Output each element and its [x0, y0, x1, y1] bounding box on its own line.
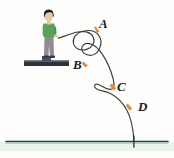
person-shoe-right [50, 56, 56, 58]
physics-trajectory-figure: A B C D [0, 0, 174, 158]
point-label-d: D [138, 100, 147, 113]
person-arm [55, 36, 59, 38]
marker-b [82, 62, 88, 68]
person-shoe-left [44, 56, 50, 58]
point-label-c: C [117, 80, 126, 93]
point-label-b: B [73, 58, 82, 71]
person-shirt [43, 23, 55, 37]
point-label-a: A [99, 17, 108, 30]
person-pants [44, 37, 54, 57]
figure-canvas [0, 0, 174, 158]
